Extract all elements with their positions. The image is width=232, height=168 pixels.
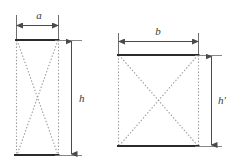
left-shape-group: a h [14, 9, 85, 156]
right-shape-group: b h' [117, 25, 227, 147]
right-shape-width-label: b [155, 25, 161, 37]
right-shape-height-label: h' [218, 94, 227, 106]
geometry-figure: a h b h' [0, 0, 232, 168]
figure-canvas: a h b h' [0, 0, 232, 168]
left-shape-width-label: a [36, 9, 42, 21]
left-shape-height-label: h [79, 92, 85, 104]
